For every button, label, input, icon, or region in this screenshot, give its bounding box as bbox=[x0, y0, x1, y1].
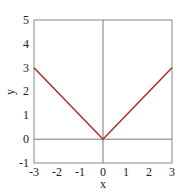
y-axis-label: y bbox=[3, 89, 17, 95]
svg-text:3: 3 bbox=[169, 165, 175, 179]
svg-text:-1: -1 bbox=[19, 156, 29, 170]
svg-text:0: 0 bbox=[23, 132, 29, 146]
svg-text:-1: -1 bbox=[75, 165, 85, 179]
svg-text:1: 1 bbox=[23, 108, 29, 122]
svg-text:-3: -3 bbox=[29, 165, 39, 179]
y-tick-labels: -1 0 1 2 3 4 5 bbox=[19, 13, 29, 170]
svg-text:3: 3 bbox=[23, 61, 29, 75]
svg-text:1: 1 bbox=[123, 165, 129, 179]
svg-text:2: 2 bbox=[23, 84, 29, 98]
svg-text:5: 5 bbox=[23, 13, 29, 27]
svg-text:-2: -2 bbox=[52, 165, 62, 179]
svg-text:4: 4 bbox=[23, 37, 29, 51]
svg-text:2: 2 bbox=[146, 165, 152, 179]
x-axis-label: x bbox=[100, 177, 106, 191]
chart: -1 0 1 2 3 4 5 -3 -2 -1 0 1 2 3 x y bbox=[0, 0, 178, 192]
